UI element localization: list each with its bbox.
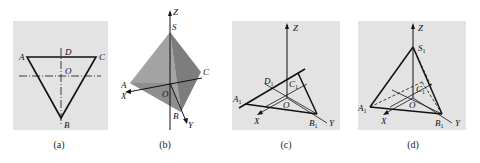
panel-b: Z S C A X O B Y (b) — [110, 0, 230, 163]
label-z: Z — [293, 23, 299, 33]
caption-c: (c) — [271, 139, 301, 150]
panel-d: Z S1 C1 A1 O X B1 Y (d) — [350, 0, 480, 163]
label-y: Y — [188, 120, 194, 130]
label-s: S — [172, 22, 177, 32]
label-o: O — [65, 66, 72, 76]
label-c: C — [203, 67, 210, 77]
caption-b: (b) — [150, 139, 180, 150]
label-o: O — [283, 100, 290, 110]
label-d: D — [64, 47, 72, 57]
label-b1: B1 — [309, 118, 318, 129]
label-b1: B1 — [435, 118, 444, 129]
caption-d: (d) — [398, 139, 428, 150]
label-a: A — [18, 52, 25, 62]
label-x: X — [253, 116, 260, 126]
caption-a: (a) — [44, 139, 74, 150]
label-z: Z — [173, 7, 179, 17]
label-b: B — [173, 111, 179, 121]
label-c1: C1 — [289, 79, 298, 90]
label-c: C — [99, 52, 106, 62]
label-x: X — [380, 116, 387, 126]
label-s1: S1 — [418, 43, 426, 54]
label-a: A — [120, 80, 127, 90]
label-y: Y — [455, 118, 461, 128]
label-d1: D1 — [263, 76, 274, 87]
label-a1: A1 — [357, 103, 367, 114]
label-b: B — [64, 120, 70, 130]
label-y: Y — [329, 118, 335, 128]
panel-c: Z D1 C1 A1 O X B1 Y (c) — [225, 0, 355, 163]
label-o: O — [162, 89, 169, 99]
label-x: X — [120, 91, 127, 101]
label-c1: C1 — [416, 84, 425, 95]
panel-a: A C D O B (a) — [0, 0, 120, 163]
label-a1: A1 — [232, 94, 242, 105]
label-z: Z — [418, 23, 424, 33]
label-o: O — [409, 100, 416, 110]
